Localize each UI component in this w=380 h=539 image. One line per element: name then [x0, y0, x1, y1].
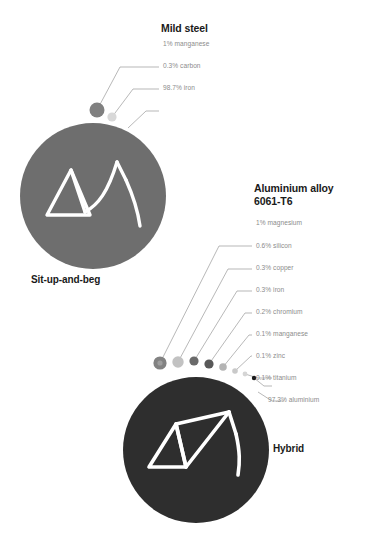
infographic-root: Mild steel 1% manganese 0.3% carbon 98.7…	[0, 0, 380, 539]
dot-magnesium-inner	[157, 360, 162, 365]
bike-caption-hybrid: Hybrid	[273, 443, 304, 454]
label-magnesium: 1% magnesium	[256, 219, 302, 227]
label-manganese-aluminium-alloy: 0.1% manganese	[256, 330, 308, 338]
group-mild-steel	[20, 67, 166, 269]
leader-line-manganese	[97, 67, 159, 110]
label-titanium: 0.1% titanium	[256, 374, 297, 382]
leader-line-silicon	[178, 269, 252, 362]
dot-zinc	[243, 372, 248, 377]
disc-hybrid	[123, 377, 269, 523]
label-manganese-mild-steel: 1% manganese	[163, 40, 209, 48]
label-silicon: 0.6% silicon	[256, 242, 292, 250]
dot-chromium	[219, 363, 227, 371]
leader-line-magnesium	[160, 246, 252, 363]
leader-line-iron	[128, 111, 159, 128]
group-title-aluminium-alloy-line2: 6061-T6	[254, 195, 334, 208]
leader-line-manganese	[235, 356, 252, 371]
label-chromium: 0.2% chromium	[256, 308, 302, 316]
label-iron-mild-steel: 98.7% iron	[163, 84, 195, 92]
dot-silicon	[172, 356, 183, 367]
group-title-mild-steel: Mild steel	[161, 22, 208, 35]
dot-manganese	[232, 368, 238, 374]
bike-caption-sit-up-and-beg: Sit-up-and-beg	[31, 274, 100, 285]
infographic-vector-layer	[0, 0, 380, 539]
dot-iron	[204, 359, 213, 368]
leader-lines-mild-steel	[97, 67, 159, 128]
dot-manganese-mild-steel	[90, 103, 105, 118]
label-zinc: 0.1% zinc	[256, 352, 285, 360]
disc-sit-up-and-beg	[20, 123, 166, 269]
label-iron-aluminium-alloy: 0.3% iron	[256, 286, 284, 294]
leader-line-copper	[194, 291, 252, 361]
leader-line-carbon	[112, 89, 159, 117]
group-title-aluminium-alloy-line1: Aluminium alloy	[254, 182, 334, 195]
label-copper: 0.3% copper	[256, 264, 294, 272]
leader-line-iron	[209, 313, 252, 364]
label-carbon-mild-steel: 0.3% carbon	[163, 62, 201, 70]
label-aluminium: 97.3% aluminium	[268, 396, 319, 404]
group-title-aluminium-alloy: Aluminium alloy 6061-T6	[254, 182, 334, 208]
leader-line-chromium	[223, 335, 252, 367]
dot-carbon-mild-steel	[107, 112, 116, 121]
dot-copper	[189, 356, 198, 365]
